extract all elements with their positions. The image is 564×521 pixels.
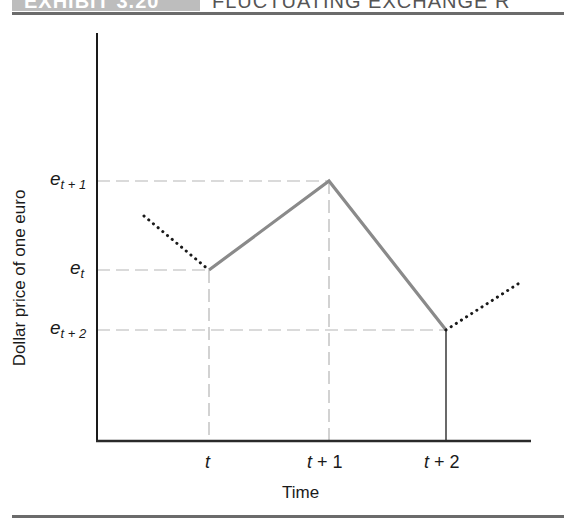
y-tick-e-t: et [70, 257, 84, 281]
y-tick-base: e [50, 317, 61, 338]
dotted-before-t [144, 216, 209, 270]
y-tick-sub: t [81, 266, 85, 281]
y-tick-base: e [70, 257, 81, 278]
bottom-rule [12, 515, 564, 518]
x-tick-t: t [205, 452, 210, 473]
y-tick-base: e [50, 168, 61, 189]
y-tick-sub: t + 2 [61, 326, 87, 341]
x-tick-t1: t + 1 [307, 452, 343, 473]
x-tick-rest: + 2 [429, 452, 460, 472]
y-tick-e-t2: et + 2 [50, 317, 86, 341]
dotted-after-t2 [446, 282, 521, 330]
x-tick-rest: + 1 [312, 452, 343, 472]
x-axis-label: Time [282, 483, 319, 503]
y-axis-label: Dollar price of one euro [10, 188, 30, 368]
y-tick-e-t1: et + 1 [50, 168, 86, 192]
y-tick-sub: t + 1 [61, 177, 87, 192]
exchange-rate-line [209, 181, 446, 330]
x-tick-t2: t + 2 [424, 452, 460, 473]
chart-canvas [0, 0, 564, 521]
